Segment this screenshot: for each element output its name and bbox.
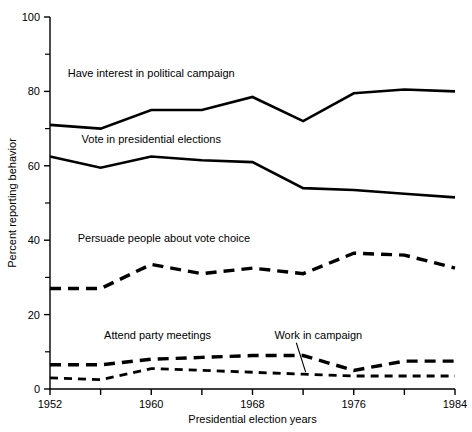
x-axis-tick-label: 1952 <box>38 398 62 410</box>
series-line-3 <box>50 356 455 371</box>
y-axis-title: Percent reporting behavior <box>6 138 18 268</box>
series-line-4 <box>50 369 455 380</box>
y-axis-tick-label: 80 <box>28 85 40 97</box>
y-axis-tick-label: 100 <box>22 11 40 23</box>
x-axis-tick-label: 1968 <box>240 398 264 410</box>
series-label-1: Vote in presidential elections <box>82 133 222 145</box>
y-axis-tick-label: 20 <box>28 309 40 321</box>
chart-container: 02040608010019521960196819761984 Have in… <box>0 0 472 432</box>
series-label-2: Persuade people about vote choice <box>78 232 250 244</box>
x-axis-tick-label: 1960 <box>139 398 163 410</box>
series-line-0 <box>50 90 455 129</box>
x-axis-tick-label: 1976 <box>342 398 366 410</box>
series-line-2 <box>50 253 455 288</box>
y-axis-tick-label: 0 <box>34 383 40 395</box>
x-axis-title: Presidential election years <box>188 413 317 425</box>
series-line-1 <box>50 157 455 198</box>
y-axis-tick-label: 60 <box>28 160 40 172</box>
chart-axis-titles: Presidential election yearsPercent repor… <box>6 138 317 425</box>
y-axis-tick-label: 40 <box>28 234 40 246</box>
series-label-0: Have interest in political campaign <box>68 67 235 79</box>
x-axis-tick-label: 1984 <box>443 398 467 410</box>
series-label-4: Work in campaign <box>274 329 362 341</box>
series-label-3: Attend party meetings <box>104 329 212 341</box>
line-chart: 02040608010019521960196819761984 Have in… <box>0 0 472 432</box>
